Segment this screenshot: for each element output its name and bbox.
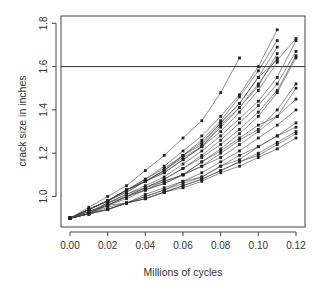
data-point [295, 98, 298, 101]
data-point [69, 217, 72, 220]
data-point [163, 182, 166, 185]
data-point [276, 39, 279, 42]
data-point [182, 150, 185, 153]
data-point [276, 52, 279, 55]
data-point [106, 204, 109, 207]
data-point [144, 169, 147, 172]
data-point [238, 96, 241, 99]
data-point [219, 171, 222, 174]
data-point [257, 104, 260, 107]
data-point [276, 28, 279, 31]
data-point [238, 102, 241, 105]
data-point [295, 109, 298, 112]
data-point [257, 156, 260, 159]
data-point [200, 156, 203, 159]
data-point [238, 128, 241, 131]
data-point [238, 122, 241, 125]
data-point [219, 135, 222, 138]
data-point [238, 117, 241, 120]
data-point [144, 180, 147, 183]
series-line [70, 47, 277, 218]
data-point [238, 154, 241, 157]
data-point [295, 83, 298, 86]
data-point [238, 57, 241, 60]
data-point [257, 145, 260, 148]
data-point [125, 202, 128, 205]
x-tick-label: 0.00 [60, 240, 80, 251]
data-point [295, 132, 298, 135]
data-point [219, 115, 222, 118]
data-point [144, 197, 147, 200]
data-point [276, 109, 279, 112]
data-point [257, 124, 260, 127]
data-point [219, 126, 222, 129]
data-point [182, 158, 185, 161]
data-point [200, 171, 203, 174]
data-point [276, 148, 279, 151]
data-point [200, 150, 203, 153]
data-point [295, 122, 298, 125]
data-point [219, 130, 222, 133]
data-point [219, 165, 222, 168]
series-7 [69, 57, 279, 220]
data-point [276, 83, 279, 86]
data-point [219, 150, 222, 153]
data-point [276, 91, 279, 94]
x-tick-label: 0.02 [98, 240, 118, 251]
series-2 [69, 28, 279, 219]
data-point [106, 195, 109, 198]
data-point [144, 193, 147, 196]
x-axis: 0.000.020.040.060.080.100.12 [60, 232, 306, 251]
data-point [257, 89, 260, 92]
data-point [219, 143, 222, 146]
data-point [163, 154, 166, 157]
series-line [70, 41, 296, 219]
data-point [238, 106, 241, 109]
data-point [219, 91, 222, 94]
data-point [257, 76, 260, 79]
data-point [257, 83, 260, 86]
data-point [276, 124, 279, 127]
data-point [200, 145, 203, 148]
data-point [200, 180, 203, 183]
data-point [163, 191, 166, 194]
x-tick-label: 0.10 [249, 240, 269, 251]
data-point [238, 137, 241, 140]
series-line [70, 51, 296, 218]
data-point [257, 100, 260, 103]
data-point [238, 132, 241, 135]
x-tick-label: 0.04 [136, 240, 156, 251]
y-tick-label: 1.6 [38, 59, 49, 73]
data-point [200, 161, 203, 164]
data-point [295, 57, 298, 60]
data-point [238, 161, 241, 164]
series-5 [69, 37, 298, 220]
data-point [200, 135, 203, 138]
y-axis: 1.01.21.41.61.8 [38, 16, 56, 204]
data-point [200, 119, 203, 122]
data-point [276, 115, 279, 118]
data-point [182, 180, 185, 183]
data-point [163, 186, 166, 189]
data-point [219, 161, 222, 164]
data-point [182, 137, 185, 140]
data-point [125, 184, 128, 187]
data-point [276, 143, 279, 146]
data-point [219, 139, 222, 142]
series-line [70, 54, 277, 219]
data-point [238, 150, 241, 153]
series-line [70, 41, 277, 219]
data-point [200, 165, 203, 168]
data-point [257, 111, 260, 114]
data-point [276, 76, 279, 79]
data-point [182, 167, 185, 170]
series-layer [69, 28, 298, 219]
data-point [295, 137, 298, 140]
data-point [106, 208, 109, 211]
data-point [276, 135, 279, 138]
series-line [70, 58, 277, 218]
data-point [257, 137, 260, 140]
data-point [257, 115, 260, 118]
data-point [276, 57, 279, 60]
x-tick-label: 0.06 [173, 240, 193, 251]
